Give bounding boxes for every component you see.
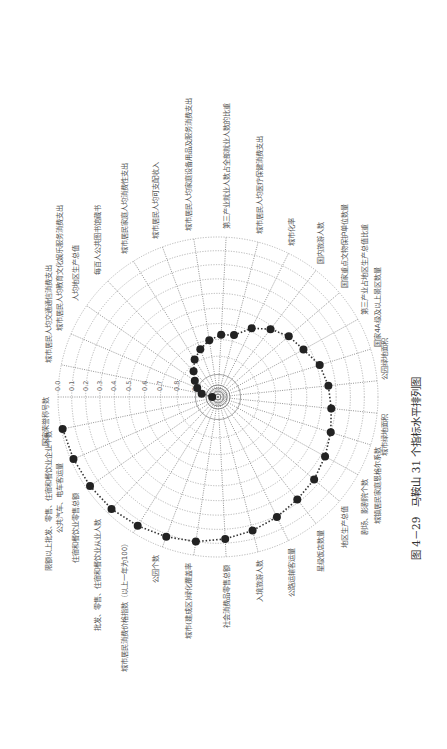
category-label: 人均地区生产总值 — [71, 245, 80, 301]
category-label: 城市居民家庭人均消费性支出 — [120, 163, 129, 254]
data-point — [324, 382, 332, 390]
data-point — [192, 538, 200, 546]
category-label: 星级饭店数量 — [316, 530, 325, 572]
caption-text: 图 4－29 马鞍山 31 个指标水平排列图 — [410, 377, 422, 560]
data-point — [217, 331, 225, 339]
data-series — [59, 324, 336, 545]
grid-spoke — [218, 397, 371, 445]
category-label: 住宿和餐饮业零售总额 — [71, 493, 80, 563]
grid-spoke — [218, 349, 371, 397]
grid-spoke — [194, 239, 218, 397]
category-label: 国内旅游人数 — [316, 222, 325, 264]
category-label: 第三产业就业人数占全部就业人数的比重 — [222, 103, 231, 229]
category-label: 城市居民人均可支配收入 — [151, 162, 160, 239]
category-label: 限额以上批发、零售、住宿和餐饮业企业个数 — [44, 431, 53, 571]
category-label: 城市居民人均家庭设备用品及服务消费支出 — [184, 98, 193, 231]
data-point — [316, 361, 324, 369]
grid-spoke — [108, 397, 218, 513]
data-point — [299, 346, 307, 354]
category-label: 入境旅游人数 — [255, 560, 264, 602]
radial-tick-label: 0.3 — [96, 381, 104, 391]
radial-tick-label: 0.0 — [54, 381, 62, 391]
data-point — [196, 345, 204, 353]
category-label: 城市居民消费价格指数（以上一年为100） — [120, 540, 129, 673]
category-label: 国家重点文物保护单位数量 — [340, 204, 349, 288]
grid-spoke — [194, 397, 218, 555]
data-point — [193, 384, 201, 392]
data-point — [59, 425, 67, 433]
radial-tick-label: 0.5 — [125, 381, 133, 391]
grid-spoke — [133, 261, 218, 397]
category-label: 城市居民人均交通通信消费支出 — [44, 265, 53, 363]
grid-spoke — [162, 247, 218, 397]
category-label: 公园个数 — [151, 555, 160, 583]
category-label: 公路运输客运量 — [287, 548, 296, 597]
radial-tick-label: 0.1 — [68, 381, 76, 391]
grid-spoke — [71, 397, 218, 460]
data-point — [86, 482, 94, 490]
data-point — [327, 428, 335, 436]
category-label: 城市化率 — [287, 218, 296, 246]
grid-spoke — [218, 237, 226, 397]
data-point — [285, 332, 293, 340]
category-label: 每百人公共图书馆藏书 — [93, 205, 102, 275]
data-point — [221, 535, 229, 543]
grid-spoke — [218, 397, 339, 501]
category-label: 国家4A级及以上景区数量 — [373, 267, 382, 347]
data-point — [208, 393, 216, 401]
category-label: 地区生产总值 — [340, 506, 349, 548]
data-point — [162, 533, 170, 541]
radial-tick-label: 0.6 — [141, 381, 149, 391]
data-point — [191, 377, 199, 385]
category-label: 公共汽车、电车客运量 — [55, 463, 64, 533]
radial-tick-label: 0.2 — [82, 381, 90, 391]
data-point — [248, 324, 256, 332]
grid-spoke — [218, 242, 258, 397]
data-point — [273, 513, 281, 521]
data-point — [190, 367, 198, 375]
category-label: 城镇居民家庭恩格尔系数 — [373, 447, 382, 524]
radial-tick-label: 0.8 — [173, 381, 181, 391]
data-point — [249, 527, 257, 535]
figure-caption: 图 4－29 马鞍山 31 个指标水平排列图 — [410, 377, 422, 560]
data-point — [205, 336, 213, 344]
data-point — [69, 455, 77, 463]
category-label: 第三产业占地区生产总值比重 — [360, 224, 369, 315]
grid-spoke — [218, 319, 358, 397]
grid-spoke — [218, 381, 377, 397]
radial-tick-label: 0.7 — [156, 381, 164, 391]
radial-tick-label: 0.4 — [110, 381, 118, 391]
data-point — [321, 452, 329, 460]
data-point — [266, 325, 274, 333]
radial-tick-labels: 0.00.10.20.30.40.50.60.70.80.9 — [54, 381, 199, 391]
data-point — [293, 495, 301, 503]
grid-spoke — [218, 397, 358, 475]
category-label: 社会消费品零售总额 — [222, 565, 231, 628]
grid-spoke — [218, 397, 226, 557]
data-point — [327, 405, 335, 413]
category-label: 城市(建成区)绿化覆盖率 — [184, 563, 193, 639]
data-point — [108, 505, 116, 513]
grid-spoke — [218, 397, 316, 524]
grid-spoke — [133, 397, 218, 533]
category-label: 剧场、影剧院个数 — [360, 479, 369, 535]
category-label: 公园绿地面积 — [380, 338, 389, 380]
data-point — [191, 356, 199, 364]
grid-spoke — [218, 293, 339, 397]
category-label: 批发、零售、住宿和餐饮业从业人数 — [93, 519, 102, 631]
data-point — [310, 476, 318, 484]
category-label: 城市居民人均教育文化娱乐服务消费支出 — [55, 205, 64, 331]
grid-spoke — [218, 397, 377, 413]
data-point — [134, 522, 142, 530]
radar-chart: 0.00.10.20.30.40.50.60.70.80.9 国家荣誉称号数城市… — [0, 0, 447, 749]
category-label: 城市居民人均医疗保健消费支出 — [255, 136, 264, 234]
data-point — [230, 331, 238, 339]
grid-spoke — [162, 397, 218, 547]
